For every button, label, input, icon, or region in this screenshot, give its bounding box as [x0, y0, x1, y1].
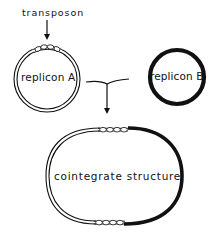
cointegrate-formation-diagram — [0, 0, 214, 240]
transposon-pointer-arrow — [44, 20, 50, 40]
transposon-label: transposon — [22, 8, 84, 18]
replicon-a-label: replicon A — [21, 72, 75, 83]
recombination-merge-arrow — [86, 79, 129, 114]
cointegrate-structure-label: cointegrate structure — [54, 171, 181, 182]
transposon-segment-top — [98, 127, 128, 132]
transposon-segment-a — [33, 44, 62, 52]
replicon-b-label: replicon B — [150, 71, 203, 82]
transposon-segment-bottom — [94, 220, 125, 225]
